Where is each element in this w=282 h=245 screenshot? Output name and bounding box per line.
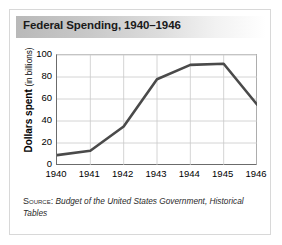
x-axis-tick-labels: 1940194119421943194419451946 (56, 168, 257, 184)
y-axis-tick: 80 (26, 71, 52, 81)
grid-lines (57, 55, 257, 165)
source-note: Source: Budget of the United States Gove… (23, 196, 259, 219)
y-axis-tick: 20 (26, 137, 52, 147)
y-axis-tick: 60 (26, 93, 52, 103)
chart-title-bar: Federal Spending, 1940–1946 (16, 16, 266, 38)
source-text: Budget of the United States Government, … (23, 196, 244, 218)
y-axis-tick: 100 (26, 49, 52, 59)
figure-container: Federal Spending, 1940–1946 Dollars spen… (9, 9, 271, 235)
x-axis-tick: 1946 (236, 168, 276, 179)
plot-frame (56, 54, 257, 165)
source-label: Source: (23, 196, 53, 206)
chart-area: Dollars spent (in billions) 020406080100… (10, 40, 270, 190)
line-chart-svg (57, 55, 257, 165)
y-axis-tick: 40 (26, 115, 52, 125)
page-title: Federal Spending, 1940–1946 (23, 19, 181, 31)
